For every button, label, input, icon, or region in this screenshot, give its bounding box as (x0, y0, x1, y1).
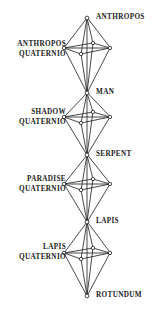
group-label-lapis-quaternio: LAPIS QUATERNIO (0, 243, 66, 262)
node-serpent (85, 153, 89, 157)
node-rotundum (85, 294, 89, 298)
node-label-rotundum: ROTUNDUM (96, 291, 142, 301)
octahedron-shadow-quaternio (64, 93, 110, 155)
node-q2-right (108, 115, 111, 118)
group-label-line1: LAPIS (0, 243, 66, 253)
group-label-line1: SHADOW (0, 108, 66, 118)
node-q3-front (79, 188, 82, 191)
diagram-canvas: ANTHROPOS MAN SERPENT LAPIS ROTUNDUM ANT… (0, 0, 161, 314)
group-label-anthropos-quaternio: ANTHROPOS QUATERNIO (0, 40, 66, 59)
group-label-line2: QUATERNIO (0, 253, 66, 263)
octahedron-anthropos-quaternio (64, 18, 110, 93)
group-label-shadow-quaternio: SHADOW QUATERNIO (0, 108, 66, 127)
node-lapis (85, 220, 89, 224)
group-label-line1: ANTHROPOS (0, 40, 66, 50)
node-q1-back (91, 41, 94, 44)
node-q3-back (91, 177, 94, 180)
node-q4-front (79, 257, 82, 260)
node-q2-back (91, 110, 94, 113)
node-q3-right (108, 182, 111, 185)
node-q4-right (108, 251, 111, 254)
octahedron-lapis-quaternio (64, 222, 110, 296)
node-anthropos (85, 16, 89, 20)
group-label-line1: PARADISE (0, 175, 66, 185)
group-label-line2: QUATERNIO (0, 50, 66, 60)
node-q4-back (91, 246, 94, 249)
node-man (85, 91, 89, 95)
node-q2-front (79, 121, 82, 124)
group-label-paradise-quaternio: PARADISE QUATERNIO (0, 175, 66, 194)
group-label-line2: QUATERNIO (0, 118, 66, 128)
node-label-serpent: SERPENT (96, 150, 132, 160)
octahedron-paradise-quaternio (64, 155, 110, 222)
node-q1-front (79, 52, 82, 55)
node-q1-right (108, 46, 111, 49)
group-label-line2: QUATERNIO (0, 185, 66, 195)
node-label-anthropos: ANTHROPOS (96, 13, 145, 23)
node-label-man: MAN (96, 88, 114, 98)
node-label-lapis: LAPIS (96, 217, 119, 227)
